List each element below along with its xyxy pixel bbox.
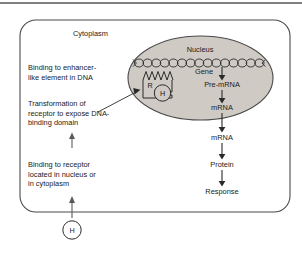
annotation-transformation-line3: binding domain (28, 118, 78, 127)
figure-canvas: Cytoplasm Nucleus (0, 0, 302, 255)
annotation-transformation-line1: Transformation of (28, 99, 87, 108)
annotation-transformation-line2: receptor to expose DNA- (28, 109, 110, 118)
pathway-diagram: Cytoplasm Nucleus (0, 0, 302, 255)
pathway-step-mrna-cytoplasmic: mRNA (211, 133, 233, 142)
hormone-entry-arrow (69, 196, 75, 218)
cytoplasm-label: Cytoplasm (73, 29, 108, 38)
pathway-step-protein: Protein (210, 160, 233, 169)
annotation-enhancer-line2: like element in DNA (28, 73, 93, 82)
transformation-step-arrow (69, 133, 75, 149)
pathway-step-response: Response (205, 187, 238, 196)
annotation-receptor-binding-line3: in cytoplasm (28, 179, 69, 188)
pathway-step-mrna-nuclear: mRNA (211, 103, 233, 112)
free-hormone-label: H (69, 226, 74, 235)
annotation-receptor-binding-line2: located in nucleus or (28, 170, 96, 179)
pathway-step-pre-mrna: Pre-mRNA (204, 80, 240, 89)
bound-hormone-label: H (160, 89, 165, 98)
nucleus-label: Nucleus (187, 45, 214, 54)
gene-label: Gene (195, 67, 213, 76)
receptor-label: R (147, 81, 152, 90)
annotation-enhancer-line1: Binding to enhancer- (28, 63, 97, 72)
annotation-receptor-binding-line1: Binding to receptor (28, 160, 91, 169)
